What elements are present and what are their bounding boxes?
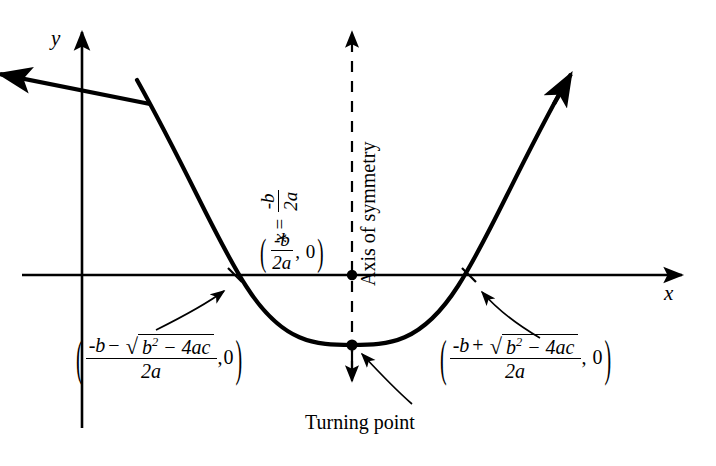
left-root-leader-arrow bbox=[156, 291, 224, 330]
left-root-denominator: 2a bbox=[138, 359, 164, 381]
right-root-lead: -b bbox=[453, 335, 470, 355]
right-root-second-coord: 0 bbox=[593, 347, 603, 367]
right-root-leader-arrow bbox=[482, 292, 540, 338]
open-paren: ( bbox=[76, 332, 83, 383]
figure-canvas: y x x = -b 2a Axis of symmetry ( -b 2a ,… bbox=[0, 0, 716, 466]
left-root-sign: − bbox=[105, 335, 122, 355]
axis-of-symmetry-name: Axis of symmetry bbox=[358, 142, 378, 286]
radicand-base: b bbox=[506, 336, 516, 358]
vertex-denominator: 2a bbox=[269, 251, 294, 272]
vertex-numerator: -b bbox=[271, 230, 293, 251]
vertex-fraction: -b 2a bbox=[269, 230, 294, 272]
left-root-lead: -b bbox=[89, 335, 106, 355]
close-paren: ) bbox=[236, 332, 243, 383]
radical-sign: √ bbox=[490, 336, 502, 358]
coord-comma: , bbox=[295, 242, 305, 261]
radicand-exponent: 2 bbox=[152, 335, 158, 349]
right-root-sign: + bbox=[469, 335, 486, 355]
left-root-second-coord: 0 bbox=[224, 347, 234, 367]
left-root-fraction: -b − √ b2 − 4ac 2a bbox=[86, 333, 217, 381]
right-root-radicand: b2 − 4ac bbox=[502, 334, 578, 357]
turning-point-dot bbox=[346, 339, 357, 350]
radicand-base: b bbox=[142, 336, 152, 358]
vertex-second-coord: 0 bbox=[306, 242, 316, 261]
x-axis-label: x bbox=[664, 283, 673, 304]
coord-comma: , bbox=[218, 347, 223, 367]
close-paren: ) bbox=[317, 232, 323, 271]
radicand-rest: − 4ac bbox=[163, 336, 210, 358]
open-paren: ( bbox=[260, 232, 266, 271]
aos-fraction: -b 2a bbox=[258, 189, 300, 214]
right-root-radical: √ b2 − 4ac bbox=[490, 333, 578, 357]
left-root-radicand: b2 − 4ac bbox=[138, 334, 214, 357]
right-root-label: ( -b + √ b2 − 4ac 2a , 0 ) bbox=[438, 333, 613, 381]
turning-point-leader-arrow bbox=[362, 354, 412, 404]
aos-numerator: -b bbox=[258, 190, 279, 212]
left-root-numerator: -b − √ b2 − 4ac bbox=[86, 333, 217, 359]
radicand-exponent: 2 bbox=[516, 335, 522, 349]
radicand-rest: − 4ac bbox=[527, 336, 574, 358]
right-root-numerator: -b + √ b2 − 4ac bbox=[450, 333, 581, 359]
left-root-label: ( -b − √ b2 − 4ac 2a , 0 ) bbox=[74, 333, 244, 381]
turning-point-label: Turning point bbox=[305, 412, 415, 432]
right-root-denominator: 2a bbox=[502, 359, 528, 381]
open-paren: ( bbox=[440, 332, 447, 383]
coord-comma: , bbox=[582, 347, 592, 367]
left-root-radical: √ b2 − 4ac bbox=[126, 333, 214, 357]
right-root-fraction: -b + √ b2 − 4ac 2a bbox=[450, 333, 581, 381]
axis-x-intercept-dot bbox=[347, 270, 357, 280]
y-axis-label: y bbox=[51, 28, 60, 49]
close-paren: ) bbox=[605, 332, 612, 383]
radical-sign: √ bbox=[126, 336, 138, 358]
axis-x-intercept-label: ( -b 2a , 0 ) bbox=[258, 230, 326, 272]
aos-denominator: 2a bbox=[279, 189, 300, 214]
